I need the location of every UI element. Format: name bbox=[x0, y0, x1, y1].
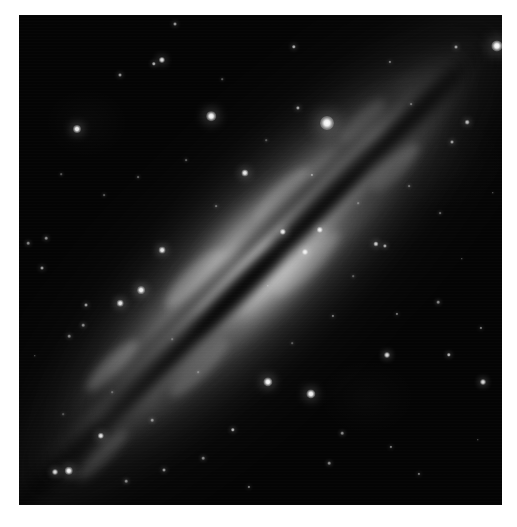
galaxy bbox=[19, 15, 502, 505]
screenshot-root bbox=[0, 0, 517, 527]
galaxy-photograph bbox=[19, 15, 502, 505]
